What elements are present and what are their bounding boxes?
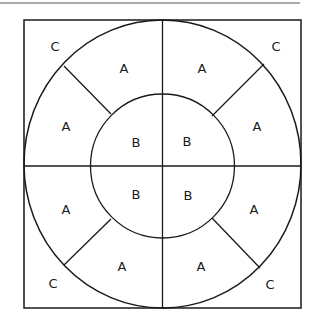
label-inner-tl: B — [132, 135, 141, 150]
diagonal-divider-br — [212, 218, 260, 268]
diagonal-divider-tr — [212, 64, 264, 116]
label-corner-br: C — [265, 277, 274, 292]
label-ring-bl-lower: A — [118, 259, 127, 274]
label-ring-tr-upper: A — [198, 61, 207, 76]
label-ring-tl-upper: A — [120, 61, 129, 76]
diagonal-divider-tl — [64, 66, 111, 114]
label-ring-br-upper: A — [250, 202, 259, 217]
label-corner-tr: C — [271, 39, 280, 54]
square-circle-diagram: C C C C A A A A A A A A B B B B — [0, 0, 315, 326]
label-inner-br: B — [184, 188, 193, 203]
label-corner-tl: C — [50, 39, 59, 54]
label-inner-bl: B — [132, 187, 141, 202]
label-ring-bl-upper: A — [62, 202, 71, 217]
label-corner-bl: C — [48, 276, 57, 291]
label-inner-tr: B — [183, 134, 192, 149]
label-ring-tl-lower: A — [62, 119, 71, 134]
label-ring-br-lower: A — [197, 259, 206, 274]
diagonal-divider-bl — [64, 219, 111, 265]
label-ring-tr-lower: A — [253, 119, 262, 134]
